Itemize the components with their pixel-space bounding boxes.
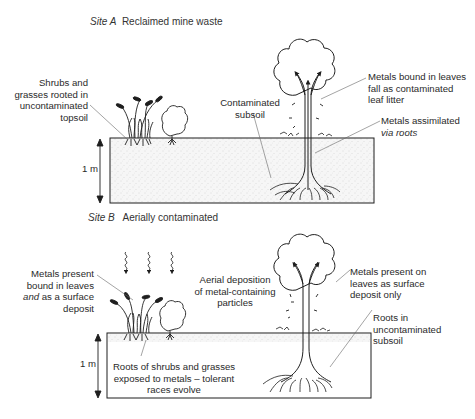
label-metals-bound-leaves: Metals bound in leaves fall as contamina… (368, 71, 466, 106)
label-line: Shrubs and (8, 77, 88, 89)
label-line: Roots in (373, 312, 441, 324)
site-a-title-text: Reclaimed mine waste (122, 16, 223, 27)
site-b-title: Site B Aerially contaminated (88, 212, 218, 223)
label-roots-uncontaminated: Roots in uncontaminated subsoil (373, 312, 441, 347)
label-contaminated-subsoil: Contaminated subsoil (212, 97, 288, 120)
site-b-title-text: Aerially contaminated (122, 212, 218, 223)
label-line: Aerial deposition (186, 274, 284, 286)
label-line: Contaminated (212, 97, 288, 109)
site-b-depth-label: 1 m (80, 358, 96, 370)
label-roots-shrubs-tolerant: Roots of shrubs and grasses exposed to m… (110, 361, 238, 396)
site-a-depth-label: 1 m (82, 163, 98, 175)
label-line: races evolve (110, 384, 238, 396)
label-line: Roots of shrubs and grasses (110, 361, 238, 373)
label-line: deposit only (350, 289, 426, 301)
label-line: deposit (8, 303, 94, 315)
label-line: Metals assimilated (381, 115, 460, 127)
label-line: leaves as surface (350, 278, 426, 290)
label-metals-present-bound: Metals present bound in leaves and as a … (8, 268, 94, 314)
site-a-title-italic: Site A (90, 16, 116, 27)
label-line: grasses rooted in (8, 89, 88, 101)
label-line: topsoil (8, 112, 88, 124)
label-line: fall as contaminated (368, 83, 466, 95)
label-line: via roots (381, 127, 460, 139)
site-b-title-italic: Site B (88, 212, 115, 223)
label-line: exposed to metals – tolerant (110, 373, 238, 385)
label-line: and as a surface (8, 291, 94, 303)
label-line: of metal-containing (186, 286, 284, 298)
label-aerial-deposition: Aerial deposition of metal-containing pa… (186, 274, 284, 309)
site-a-soil-block (110, 138, 374, 203)
label-line: leaf litter (368, 94, 466, 106)
label-line: uncontaminated (8, 100, 88, 112)
label-line: subsoil (212, 109, 288, 121)
site-a-title: Site A Reclaimed mine waste (90, 16, 222, 27)
label-line: Metals present on (350, 266, 426, 278)
diagram-canvas (0, 0, 475, 419)
label-shrubs-uncontaminated: Shrubs and grasses rooted in uncontamina… (8, 77, 88, 123)
label-line: subsoil (373, 335, 441, 347)
label-line: particles (186, 297, 284, 309)
label-line: uncontaminated (373, 324, 441, 336)
label-line: bound in leaves (8, 280, 94, 292)
label-metals-assimilated: Metals assimilated via roots (381, 115, 460, 138)
aerial-deposition-arrows (125, 252, 173, 272)
label-metals-surface-only: Metals present on leaves as surface depo… (350, 266, 426, 301)
label-line: Metals bound in leaves (368, 71, 466, 83)
label-line: Metals present (8, 268, 94, 280)
